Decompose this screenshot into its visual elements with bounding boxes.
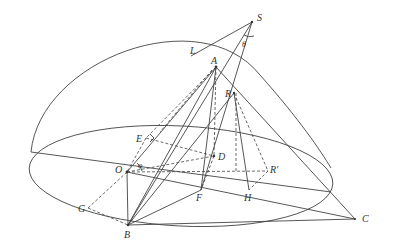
point-R [233,92,235,94]
label-C: C [362,213,369,224]
point-A [215,66,218,69]
label-B: B [124,229,130,240]
line-BC [128,219,355,225]
dash-GB [88,208,128,225]
dash-RpH [249,171,268,190]
line-OC [127,172,355,219]
label-R-prime: R′ [269,164,279,175]
point-S [251,21,253,23]
label-O: O [115,164,122,175]
hemisphere-dome [31,41,331,168]
point-D [213,155,215,157]
label-S: S [257,12,262,23]
label-theta: θ [242,40,246,49]
angle-theta-arc [244,35,254,37]
dash-OG [88,172,127,208]
base-disk [27,118,336,234]
label-D: D [217,151,226,162]
label-A: A [210,55,218,66]
point-B [127,224,129,226]
line-BA [128,67,216,225]
diameter-line [31,152,331,192]
label-L: L [189,45,196,56]
label-R: R [224,88,231,99]
dash-ORp [127,171,268,172]
point-O [126,171,129,174]
point-C [354,218,356,220]
geometry-diagram: S θ L A R E O φ D R′ F H G B C [0,0,395,248]
label-H: H [243,192,252,203]
line-AO [127,67,216,172]
label-F: F [195,192,203,203]
label-phi: φ [138,161,143,170]
label-G: G [78,203,85,214]
label-E: E [135,133,142,144]
line-AC [216,67,355,219]
line-RH [234,93,249,190]
line-BO [127,172,128,225]
